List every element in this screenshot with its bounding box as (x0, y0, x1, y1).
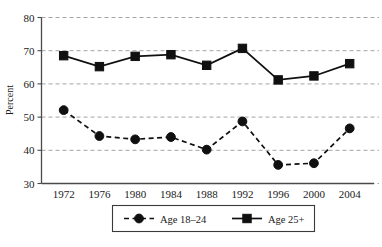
data-point-1972 (59, 106, 68, 115)
legend-item-2[interactable]: Age 25+ (232, 214, 305, 225)
data-point-2000 (310, 72, 318, 80)
data-point-1976 (95, 132, 104, 141)
data-point-1976 (95, 62, 103, 70)
x-tick-label-1980: 1980 (124, 188, 147, 200)
chart-figure: 304050607080 197219761980198419881992199… (0, 0, 382, 247)
y-axis: 304050607080 (24, 12, 42, 190)
series-line-1 (64, 110, 350, 165)
y-tick-label-30: 30 (24, 178, 36, 190)
x-tick-label-1976: 1976 (88, 188, 111, 200)
y-tick-label-40: 40 (24, 144, 36, 156)
data-point-1988 (202, 145, 211, 154)
x-tick-label-2000: 2000 (303, 188, 326, 200)
data-point-2004 (345, 59, 353, 67)
y-tick-label-80: 80 (24, 12, 36, 24)
data-point-2000 (310, 159, 319, 168)
data-point-1980 (131, 52, 139, 60)
x-axis: 197219761980198419881992199620002004 (42, 184, 375, 200)
data-point-1972 (59, 51, 67, 59)
data-point-1984 (167, 50, 175, 58)
legend-label-2: Age 25+ (268, 214, 305, 225)
y-tick-label-60: 60 (24, 78, 36, 90)
data-point-1996 (274, 161, 283, 170)
x-tick-label-1972: 1972 (53, 188, 75, 200)
legend: Age 18–24Age 25+ (113, 206, 315, 232)
legend-item-1[interactable]: Age 18–24 (124, 214, 207, 225)
legend-label-1: Age 18–24 (160, 214, 207, 225)
line-chart: 304050607080 197219761980198419881992199… (0, 0, 382, 247)
series-1 (59, 106, 354, 170)
x-tick-label-1996: 1996 (267, 188, 290, 200)
y-axis-title-group: Percent (4, 85, 15, 115)
series-2 (59, 44, 353, 84)
x-tick-label-1988: 1988 (196, 188, 219, 200)
x-tick-label-1992: 1992 (231, 188, 253, 200)
data-point-1984 (167, 133, 176, 142)
legend-marker-square (243, 214, 251, 222)
data-point-1980 (131, 135, 140, 144)
data-point-1992 (238, 117, 247, 126)
y-tick-label-70: 70 (24, 45, 36, 57)
data-point-2004 (345, 124, 354, 133)
data-point-1992 (238, 44, 246, 52)
legend-marker-circle (135, 214, 144, 223)
x-tick-label-1984: 1984 (160, 188, 183, 200)
data-point-1988 (202, 61, 210, 69)
y-axis-title: Percent (4, 85, 15, 115)
data-point-1996 (274, 76, 282, 84)
y-tick-label-50: 50 (24, 111, 36, 123)
gridlines (42, 18, 380, 184)
x-tick-label-2004: 2004 (339, 188, 362, 200)
